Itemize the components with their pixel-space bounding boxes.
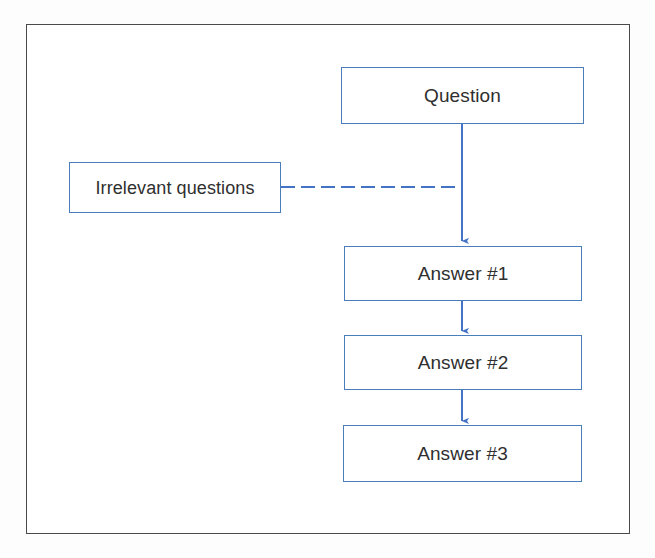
node-answer-3-label: Answer #3: [417, 444, 508, 463]
node-question-label: Question: [424, 86, 501, 105]
diagram-canvas: Question Irrelevant questions Answer #1 …: [0, 0, 655, 558]
node-irrelevant-questions-label: Irrelevant questions: [95, 179, 254, 197]
node-answer-3[interactable]: Answer #3: [343, 425, 582, 482]
node-answer-1[interactable]: Answer #1: [344, 246, 582, 301]
node-answer-1-label: Answer #1: [418, 264, 509, 283]
node-question[interactable]: Question: [341, 67, 584, 124]
node-irrelevant-questions[interactable]: Irrelevant questions: [69, 162, 281, 213]
node-answer-2[interactable]: Answer #2: [344, 335, 582, 390]
node-answer-2-label: Answer #2: [418, 353, 509, 372]
